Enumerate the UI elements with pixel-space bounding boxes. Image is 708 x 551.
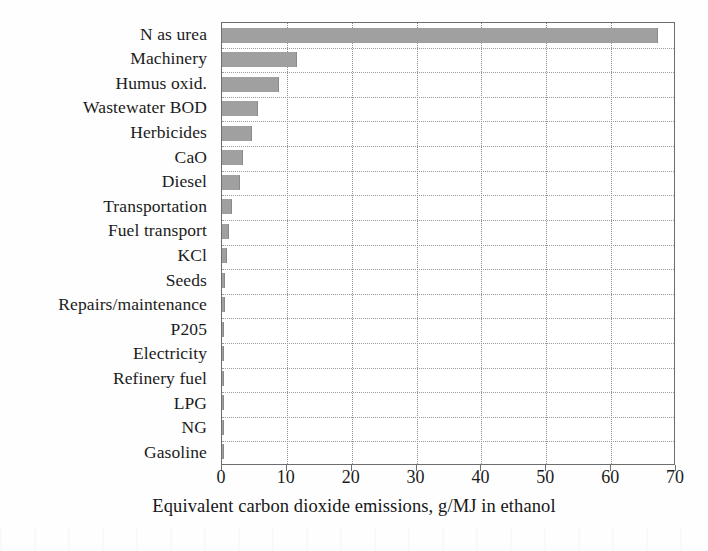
bar — [222, 199, 232, 214]
bar — [222, 346, 224, 361]
x-tick-label: 50 — [536, 468, 554, 486]
category-label: Humus oxid. — [0, 71, 214, 96]
x-tick-label: 30 — [407, 468, 425, 486]
bar-row — [222, 415, 674, 440]
bar — [222, 444, 224, 459]
bar — [222, 52, 297, 67]
bar-row — [222, 219, 674, 244]
bar-row — [222, 268, 674, 293]
bar — [222, 77, 279, 92]
category-label: Diesel — [0, 170, 214, 195]
category-label: Refinery fuel — [0, 367, 214, 392]
x-axis-title: Equivalent carbon dioxide emissions, g/M… — [0, 497, 708, 516]
x-tick-label: 40 — [471, 468, 489, 486]
x-tick-label: 10 — [277, 468, 295, 486]
bar-row — [222, 391, 674, 416]
bar — [222, 224, 229, 239]
category-label: Seeds — [0, 268, 214, 293]
bar — [222, 297, 225, 312]
category-label: LPG — [0, 391, 214, 416]
bar-row — [222, 366, 674, 391]
bar-series — [222, 23, 674, 464]
category-label: KCl — [0, 243, 214, 268]
bar-row — [222, 195, 674, 220]
bar-chart-figure: N as ureaMachineryHumus oxid.Wastewater … — [0, 0, 708, 551]
category-label: Wastewater BOD — [0, 96, 214, 121]
x-tick-label: 60 — [601, 468, 619, 486]
bar-row — [222, 72, 674, 97]
bar — [222, 322, 224, 337]
x-tick-label: 0 — [217, 468, 226, 486]
bar — [222, 28, 658, 43]
category-label: Transportation — [0, 194, 214, 219]
scan-artifact — [0, 528, 708, 551]
plot-area — [221, 22, 675, 465]
category-label: Gasoline — [0, 440, 214, 465]
category-label: CaO — [0, 145, 214, 170]
category-label: P205 — [0, 317, 214, 342]
bar — [222, 126, 252, 141]
bar — [222, 420, 224, 435]
bar — [222, 150, 243, 165]
bar — [222, 371, 224, 386]
category-label: Electricity — [0, 342, 214, 367]
x-tick-label: 70 — [666, 468, 684, 486]
bar-row — [222, 121, 674, 146]
bar-row — [222, 146, 674, 171]
bar-row — [222, 440, 674, 465]
category-label: NG — [0, 416, 214, 441]
category-label: Repairs/maintenance — [0, 293, 214, 318]
y-axis-category-labels: N as ureaMachineryHumus oxid.Wastewater … — [0, 22, 214, 465]
x-tick-label: 20 — [342, 468, 360, 486]
bar — [222, 395, 224, 410]
bar-row — [222, 170, 674, 195]
bar — [222, 273, 225, 288]
category-label: N as urea — [0, 22, 214, 47]
category-label: Herbicides — [0, 120, 214, 145]
bar-row — [222, 97, 674, 122]
category-label: Machinery — [0, 47, 214, 72]
bar-row — [222, 293, 674, 318]
category-label: Fuel transport — [0, 219, 214, 244]
bar-row — [222, 48, 674, 73]
bar-row — [222, 23, 674, 48]
bar-row — [222, 244, 674, 269]
bar — [222, 101, 258, 116]
bar-row — [222, 342, 674, 367]
bar — [222, 248, 227, 263]
bar-row — [222, 317, 674, 342]
bar — [222, 175, 240, 190]
